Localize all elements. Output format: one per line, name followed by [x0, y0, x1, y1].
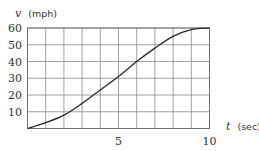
x-tick-label: 5: [115, 135, 122, 148]
y-axis-tick-labels: 102030405060: [8, 22, 22, 119]
y-tick-label: 60: [8, 22, 22, 35]
y-tick-label: 10: [8, 106, 22, 119]
x-axis-variable: t: [226, 120, 231, 133]
x-tick-label: 10: [203, 135, 217, 148]
x-axis-unit: (sec): [237, 121, 259, 132]
y-tick-label: 20: [8, 89, 22, 102]
y-axis-unit: (mph): [28, 8, 57, 19]
y-tick-label: 50: [8, 39, 22, 52]
y-tick-label: 40: [8, 56, 22, 69]
velocity-time-chart: 102030405060 510 v (mph) t (sec): [0, 0, 259, 151]
grid-lines: [28, 28, 210, 129]
y-axis-variable: v: [15, 7, 22, 20]
y-axis-label: v (mph): [15, 3, 57, 20]
y-tick-label: 30: [8, 72, 22, 85]
x-axis-label: t (sec): [226, 116, 259, 133]
x-axis-tick-labels: 510: [115, 135, 217, 148]
